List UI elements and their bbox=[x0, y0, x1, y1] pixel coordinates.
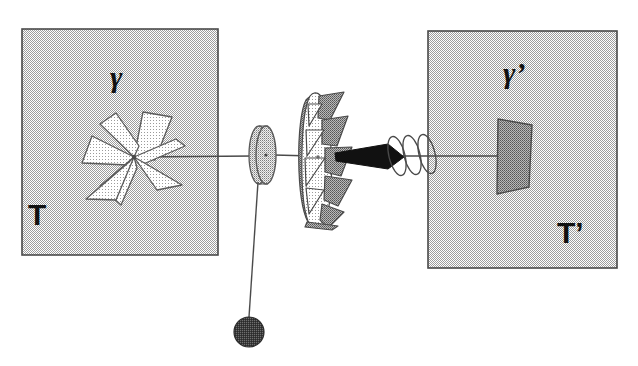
plate-face bbox=[497, 119, 532, 194]
hanging-weight bbox=[234, 317, 264, 347]
hanging-string bbox=[249, 182, 258, 317]
diagram-svg bbox=[0, 0, 638, 366]
ratchet-tooth-1 bbox=[318, 92, 344, 120]
ratchet-hub bbox=[316, 155, 320, 159]
string-spool bbox=[249, 126, 276, 184]
vane-hub bbox=[132, 155, 136, 159]
spool-center-dot bbox=[264, 153, 267, 156]
label-temperature-right: T’ bbox=[557, 218, 584, 248]
figure-canvas: γ T γ’ T’ bbox=[0, 0, 638, 366]
ratchet-tooth-4 bbox=[324, 176, 352, 206]
label-gamma-right: γ’ bbox=[503, 58, 525, 88]
label-gamma-left: γ bbox=[110, 62, 122, 92]
spring-coil-2 bbox=[399, 134, 424, 177]
label-temperature-left: T bbox=[28, 200, 46, 230]
ratchet-tooth-2 bbox=[322, 116, 348, 146]
hanging-load bbox=[234, 182, 264, 347]
ratchet-pawl-plate bbox=[497, 119, 532, 194]
